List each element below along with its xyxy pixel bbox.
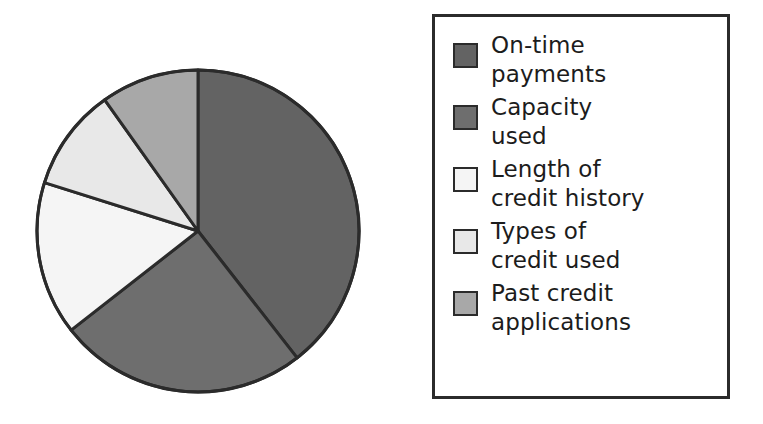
legend-swatch-on-time-payments	[453, 43, 478, 68]
legend-item-types-of-credit-used[interactable]: Types of credit used	[453, 217, 719, 275]
legend-items: On-time payments Capacity used Length of…	[453, 31, 719, 388]
legend-swatch-types-of-credit-used	[453, 229, 478, 254]
legend-swatch-capacity-used	[453, 105, 478, 130]
pie-chart-svg	[30, 60, 370, 405]
legend-label-types-of-credit-used: Types of credit used	[491, 217, 719, 275]
legend: On-time payments Capacity used Length of…	[432, 14, 730, 399]
legend-swatch-past-credit-applications	[453, 291, 478, 316]
legend-item-past-credit-applications[interactable]: Past credit applications	[453, 279, 719, 337]
legend-swatch-length-of-credit-history	[453, 167, 478, 192]
legend-item-length-of-credit-history[interactable]: Length of credit history	[453, 155, 719, 213]
legend-item-on-time-payments[interactable]: On-time payments	[453, 31, 719, 89]
pie-chart	[30, 60, 370, 405]
legend-label-on-time-payments: On-time payments	[491, 31, 719, 89]
legend-label-past-credit-applications: Past credit applications	[491, 279, 719, 337]
legend-item-capacity-used[interactable]: Capacity used	[453, 93, 719, 151]
legend-label-length-of-credit-history: Length of credit history	[491, 155, 719, 213]
pie-chart-figure: On-time payments Capacity used Length of…	[0, 0, 763, 424]
legend-label-capacity-used: Capacity used	[491, 93, 719, 151]
